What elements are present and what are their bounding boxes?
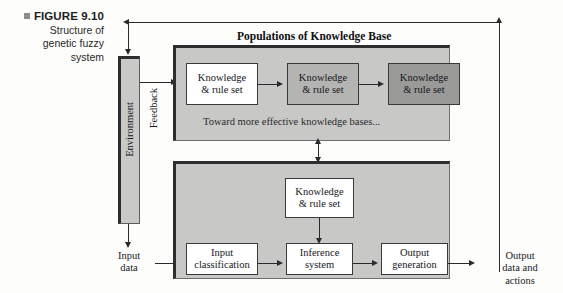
population-box-2: Knowledge & rule set [287, 63, 359, 105]
input-classification-line-1: Input [211, 247, 233, 259]
figure-caption: FIGURE 9.10 Structure of genetic fuzzy s… [0, 10, 104, 63]
population-box-3: Knowledge & rule set [388, 63, 460, 105]
inference-to-output-line [353, 263, 374, 264]
output-exit-line [448, 263, 471, 264]
input-data-arrowhead [125, 242, 131, 248]
output-data-line-1: Output [505, 250, 534, 261]
inference-system-box: Inference system [286, 243, 353, 275]
feedback-label: Feedback [148, 88, 159, 128]
bottom-knowledge-box: Knowledge & rule set [285, 178, 354, 218]
outer-feedback-top-line [128, 22, 500, 23]
environment-label: Environment [124, 102, 135, 157]
knowledge-to-inference-line [319, 218, 320, 239]
output-data-label: Output data and actions [481, 250, 559, 287]
output-data-line-3: actions [505, 275, 535, 286]
classification-to-inference-line [258, 263, 279, 264]
figure-caption-line-2: genetic fuzzy [0, 37, 104, 49]
outer-feedback-dropline [128, 22, 129, 50]
output-data-line-2: data and [502, 262, 537, 273]
output-generation-line-1: Output [400, 247, 429, 259]
output-exit-arrowhead [469, 260, 475, 266]
input-data-dropline [128, 224, 129, 243]
population-connector-1 [258, 84, 279, 85]
figure-caption-line-1: Structure of [0, 24, 104, 36]
inference-system-line-2: system [305, 259, 334, 271]
input-data-line-1: Input [118, 250, 140, 261]
population-box-2-line-1: Knowledge [299, 72, 347, 84]
figure-number-line: FIGURE 9.10 [0, 10, 104, 23]
figure-number: FIGURE 9.10 [34, 10, 104, 22]
population-connector-1-arrowhead [277, 81, 283, 87]
output-generation-box: Output generation [381, 243, 448, 275]
population-box-3-line-2: & rule set [403, 84, 444, 96]
population-box-2-line-2: & rule set [302, 84, 343, 96]
inference-system-line-1: Inference [300, 247, 340, 259]
input-classification-line-2: classification [194, 259, 249, 271]
population-connector-2-arrowhead [378, 81, 384, 87]
population-box-1-line-1: Knowledge [198, 72, 246, 84]
classification-to-inference-arrowhead [277, 260, 283, 266]
environment-input-arrowhead [125, 49, 131, 55]
figure-diagram: FIGURE 9.10 Structure of genetic fuzzy s… [0, 0, 563, 293]
output-feedback-riser [499, 22, 500, 272]
top-panel-title: Populations of Knowledge Base [237, 30, 391, 42]
input-data-label: Input data [104, 250, 154, 275]
population-box-3-line-1: Knowledge [400, 72, 448, 84]
population-connector-2 [359, 84, 380, 85]
output-generation-line-2: generation [392, 259, 436, 271]
input-data-line-2: data [120, 262, 138, 273]
input-classification-box: Input classification [186, 243, 258, 275]
figure-bullet-icon [24, 13, 30, 19]
panel-link-arrowhead-up [315, 138, 321, 144]
inference-to-output-arrowhead [372, 260, 378, 266]
population-box-1-line-2: & rule set [201, 84, 242, 96]
population-box-1: Knowledge & rule set [186, 63, 258, 105]
bottom-knowledge-box-line-2: & rule set [299, 198, 340, 210]
feedback-line [140, 82, 173, 83]
bottom-knowledge-box-line-1: Knowledge [295, 186, 343, 198]
figure-caption-line-3: system [0, 51, 104, 63]
top-panel-note: Toward more effective knowledge bases... [203, 116, 380, 127]
